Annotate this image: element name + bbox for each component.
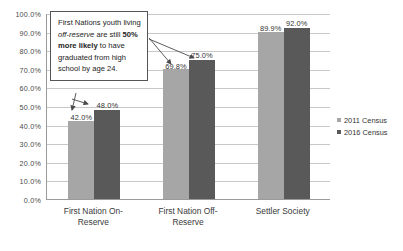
annotation-line-1: First Nations youth	[58, 18, 121, 27]
bar-value-label: 92.0%	[281, 19, 313, 28]
bar	[68, 121, 94, 199]
y-tick-label: 30.0%	[20, 140, 41, 149]
bar	[163, 69, 189, 199]
legend-item: 2016 Census	[337, 126, 388, 138]
legend-swatch	[337, 130, 341, 134]
annotation-line-3-prefix: still	[110, 30, 123, 39]
bar-value-label: 42.0%	[65, 113, 97, 122]
legend-label: 2011 Census	[344, 116, 387, 125]
y-tick-label: 60.0%	[20, 84, 41, 93]
annotation-callout: First Nations youth living off-reserve a…	[50, 11, 148, 81]
annotation-line-2-suffix: are	[94, 30, 107, 39]
bar	[94, 110, 120, 199]
y-tick-label: 50.0%	[20, 103, 41, 112]
annotation-line-2-prefix: living	[123, 18, 140, 27]
legend-label: 2016 Census	[344, 128, 388, 137]
bar-value-label: 75.0%	[186, 51, 218, 60]
y-tick-label: 0.0%	[24, 196, 41, 205]
bar	[258, 32, 284, 199]
bar-value-label: 69.8%	[160, 62, 192, 71]
y-axis-tick-labels: 100.0%90.0%80.0%70.0%60.0%50.0%40.0%30.0…	[0, 0, 44, 251]
category-label: First Nation Off- Reserve	[141, 206, 236, 228]
category-label: Settler Society	[235, 206, 330, 217]
y-tick-label: 10.0%	[20, 177, 41, 186]
y-tick-label: 80.0%	[20, 47, 41, 56]
legend-item: 2011 Census	[337, 114, 388, 126]
annotation-line-6: age 24.	[92, 64, 117, 73]
bar-value-label: 48.0%	[91, 101, 123, 110]
bar	[189, 60, 215, 200]
category-label: First Nation On- Reserve	[46, 206, 141, 228]
y-tick-label: 20.0%	[20, 158, 41, 167]
y-tick-label: 40.0%	[20, 121, 41, 130]
y-tick-label: 90.0%	[20, 28, 41, 37]
legend-swatch	[337, 118, 341, 122]
bar-chart: 100.0%90.0%80.0%70.0%60.0%50.0%40.0%30.0…	[0, 0, 403, 251]
bar	[284, 28, 310, 199]
legend: 2011 Census2016 Census	[337, 114, 388, 138]
annotation-emphasis-off-reserve: off-reserve	[58, 30, 94, 39]
y-tick-label: 100.0%	[15, 10, 41, 19]
y-tick-label: 70.0%	[20, 65, 41, 74]
